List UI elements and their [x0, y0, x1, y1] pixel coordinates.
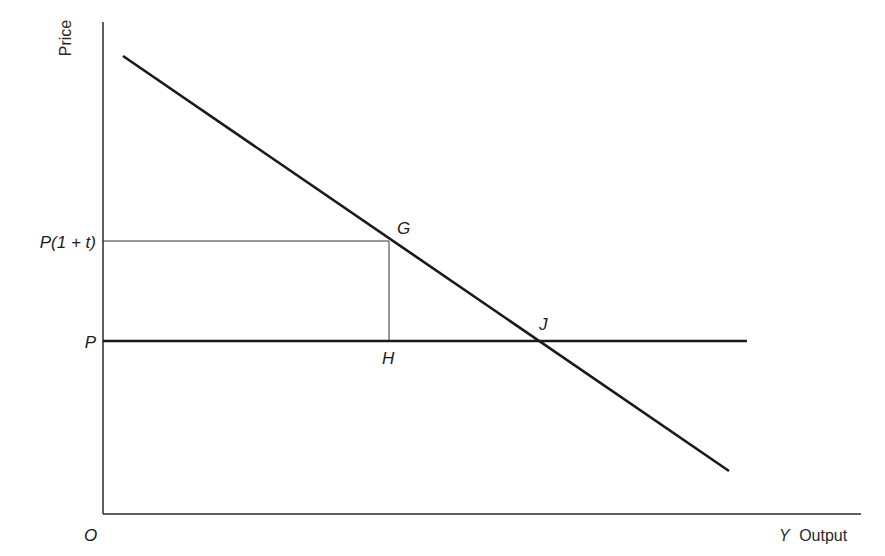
- taxed-price-label: P(1 + t): [40, 233, 96, 252]
- point-h-label: H: [382, 349, 395, 368]
- origin-label: O: [84, 526, 97, 545]
- x-axis-variable: Y: [779, 527, 791, 544]
- x-axis-label: Y Output: [779, 527, 848, 544]
- tax-demand-diagram: Price O Y Output P(1 + t) P G H J: [0, 0, 885, 556]
- x-axis-title: Output: [799, 527, 848, 544]
- y-axis-label: Price: [57, 20, 74, 57]
- point-g-label: G: [397, 219, 410, 238]
- demand-line: [123, 56, 729, 471]
- point-j-label: J: [538, 315, 548, 334]
- price-label: P: [85, 333, 97, 352]
